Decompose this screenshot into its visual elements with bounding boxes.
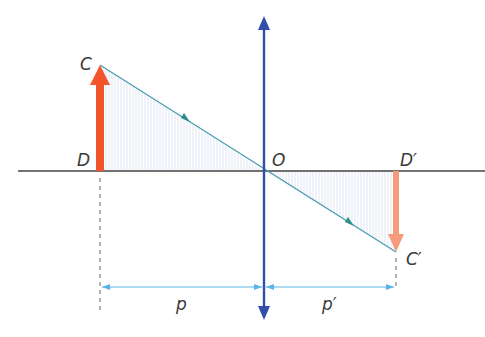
object-arrow	[96, 82, 104, 171]
label-p: p	[175, 294, 187, 314]
dim-arrow-mid-right-icon	[266, 284, 274, 290]
dim-arrow-left-icon	[102, 284, 110, 290]
image-arrow	[393, 171, 399, 237]
label-d-prime: D′	[400, 150, 417, 170]
lens-diagram: C D O D′ C′ p p′	[0, 0, 485, 337]
label-d: D	[77, 150, 90, 170]
label-c: C	[80, 54, 92, 74]
lens-top-arrow-icon	[258, 16, 270, 30]
label-c-prime: C′	[406, 249, 422, 269]
lens-bottom-arrow-icon	[258, 306, 270, 320]
label-p-prime: p′	[321, 294, 337, 314]
dim-arrow-right-icon	[386, 284, 394, 290]
label-o: O	[272, 150, 285, 170]
dim-arrow-mid-left-icon	[254, 284, 262, 290]
